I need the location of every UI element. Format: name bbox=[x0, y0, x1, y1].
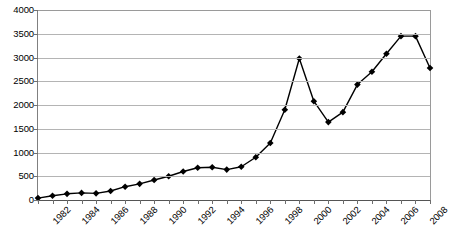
data-point-1989 bbox=[136, 181, 143, 188]
x-tick-label-2004: 2004 bbox=[369, 204, 391, 226]
x-tick-mark-2009 bbox=[430, 200, 431, 204]
y-tick-label-2000: 2000 bbox=[2, 100, 34, 110]
y-tick-label-500: 500 bbox=[2, 172, 34, 182]
x-tick-label-2008: 2008 bbox=[428, 204, 450, 226]
x-tick-label-1982: 1982 bbox=[50, 204, 72, 226]
data-point-1994 bbox=[209, 164, 216, 171]
gridline-500 bbox=[38, 176, 430, 177]
data-point-1985 bbox=[78, 190, 85, 197]
gridline-1500 bbox=[38, 129, 430, 130]
data-point-1987 bbox=[107, 188, 114, 195]
x-tick-label-1988: 1988 bbox=[137, 204, 159, 226]
y-tick-label-4000: 4000 bbox=[2, 5, 34, 15]
x-tick-label-2000: 2000 bbox=[311, 204, 333, 226]
data-point-1993 bbox=[194, 164, 201, 171]
gridline-4000 bbox=[38, 10, 430, 11]
plot-area bbox=[37, 10, 431, 200]
x-tick-label-1986: 1986 bbox=[108, 204, 130, 226]
gridline-1000 bbox=[38, 153, 430, 154]
x-tick-label-1996: 1996 bbox=[253, 204, 275, 226]
y-tick-label-0: 0 bbox=[2, 195, 34, 205]
y-tick-label-1000: 1000 bbox=[2, 148, 34, 158]
y-tick-mark-2500 bbox=[34, 81, 38, 82]
y-tick-mark-500 bbox=[34, 176, 38, 177]
gridline-3000 bbox=[38, 58, 430, 59]
y-tick-mark-4000 bbox=[34, 10, 38, 11]
data-point-1984 bbox=[64, 191, 71, 198]
y-tick-mark-3000 bbox=[34, 58, 38, 59]
y-tick-mark-2000 bbox=[34, 105, 38, 106]
y-tick-label-3500: 3500 bbox=[2, 29, 34, 39]
x-tick-label-2002: 2002 bbox=[340, 204, 362, 226]
x-tick-label-1990: 1990 bbox=[166, 204, 188, 226]
y-tick-label-2500: 2500 bbox=[2, 77, 34, 87]
series-line bbox=[38, 36, 430, 198]
data-point-2009 bbox=[427, 65, 434, 72]
data-point-1990 bbox=[151, 177, 158, 184]
gridline-2500 bbox=[38, 81, 430, 82]
data-point-1995 bbox=[223, 166, 230, 173]
x-tick-label-1984: 1984 bbox=[79, 204, 101, 226]
y-tick-mark-1000 bbox=[34, 153, 38, 154]
y-tick-mark-3500 bbox=[34, 34, 38, 35]
data-point-1992 bbox=[180, 168, 187, 175]
x-tick-label-1994: 1994 bbox=[224, 204, 246, 226]
gridline-2000 bbox=[38, 105, 430, 106]
x-tick-label-2006: 2006 bbox=[399, 204, 421, 226]
data-point-1986 bbox=[93, 190, 100, 197]
x-axis-tick-labels: 1982198419861988199019921994199619982000… bbox=[37, 200, 429, 246]
x-tick-label-1998: 1998 bbox=[282, 204, 304, 226]
y-tick-label-3000: 3000 bbox=[2, 53, 34, 63]
gridline-3500 bbox=[38, 34, 430, 35]
data-point-1988 bbox=[122, 183, 129, 190]
y-axis-tick-labels: 05001000150020002500300035004000 bbox=[0, 0, 34, 246]
y-tick-label-1500: 1500 bbox=[2, 124, 34, 134]
y-tick-mark-1500 bbox=[34, 129, 38, 130]
data-point-1999 bbox=[282, 106, 289, 113]
data-point-1983 bbox=[49, 192, 56, 199]
x-tick-label-1992: 1992 bbox=[195, 204, 217, 226]
